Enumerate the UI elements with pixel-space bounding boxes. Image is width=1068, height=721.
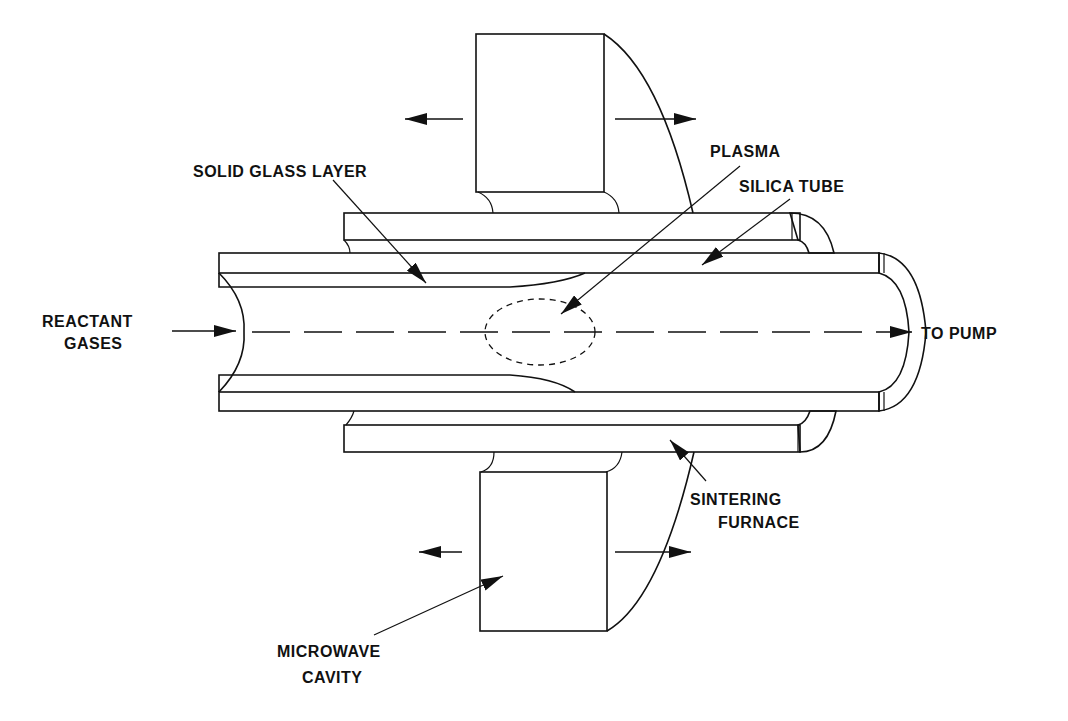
microwave-cavity-top [476,34,693,213]
label-solid-glass-layer: SOLID GLASS LAYER [193,163,367,180]
label-microwave-cavity-line1: MICROWAVE [277,643,381,660]
label-sintering-furnace-line1: SINTERING [690,491,782,508]
cavity-motion-arrows [405,119,696,552]
label-silica-tube: SILICA TUBE [739,178,844,195]
label-reactant-gases-line1: REACTANT [42,313,133,330]
leader-lines [333,166,790,635]
label-reactant-gases-line2: GASES [64,335,123,352]
microwave-cavity-bottom [480,452,694,631]
diagram-canvas: SOLID GLASS LAYER PLASMA SILICA TUBE REA… [0,0,1068,721]
label-to-pump: TO PUMP [921,325,997,342]
label-plasma: PLASMA [710,143,781,160]
label-microwave-cavity-line2: CAVITY [302,669,362,686]
label-sintering-furnace-line2: FURNACE [718,514,800,531]
